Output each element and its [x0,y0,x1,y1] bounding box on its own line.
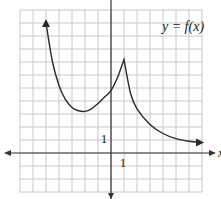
y-tick-label: 1 [101,131,108,146]
x-axis-label: x [217,145,221,160]
x-axis-left-arrow-icon [4,150,11,156]
y-axis-down-arrow-icon [108,193,114,199]
function-label: y = f(x) [160,19,204,35]
graph: y = f(x) x 1 1 [0,0,221,199]
x-tick-label: 1 [120,155,127,170]
x-axis-right-arrow-icon [209,150,216,156]
